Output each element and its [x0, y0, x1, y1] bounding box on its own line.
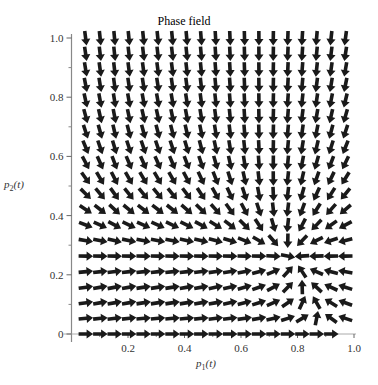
field-arrow	[164, 185, 180, 202]
field-arrow	[222, 234, 239, 247]
field-arrow	[150, 282, 166, 293]
field-arrow	[194, 266, 210, 277]
field-arrow	[211, 46, 221, 61]
field-arrow	[136, 266, 151, 277]
field-arrow	[225, 31, 235, 46]
field-arrow	[179, 313, 194, 324]
field-arrow	[323, 185, 339, 202]
field-arrow	[150, 313, 165, 324]
field-arrow	[167, 77, 178, 93]
field-arrow	[337, 201, 354, 217]
field-arrow	[150, 185, 166, 202]
field-arrow	[237, 201, 252, 218]
field-arrow	[95, 46, 106, 62]
field-arrow	[266, 251, 281, 261]
field-arrow	[311, 62, 322, 77]
field-arrow	[121, 218, 138, 232]
field-arrow	[254, 47, 263, 62]
field-arrow	[325, 93, 337, 109]
field-arrow	[77, 186, 94, 203]
field-arrow	[210, 93, 221, 108]
field-arrow	[165, 329, 180, 338]
field-arrow	[108, 139, 121, 156]
field-arrow	[295, 217, 310, 234]
field-arrow	[251, 296, 268, 309]
field-arrow	[254, 124, 264, 139]
field-arrow	[180, 251, 195, 260]
field-arrow	[337, 281, 354, 294]
field-arrow	[224, 139, 235, 155]
field-arrow	[196, 93, 207, 109]
field-arrow	[223, 329, 238, 338]
field-arrow	[136, 329, 151, 338]
field-arrow	[254, 62, 263, 77]
field-arrow	[311, 124, 323, 140]
field-arrow	[240, 93, 250, 108]
field-arrow	[107, 281, 123, 293]
field-arrow	[165, 154, 179, 171]
field-arrow	[165, 170, 180, 187]
field-arrow	[337, 266, 353, 278]
field-arrow	[308, 279, 325, 296]
field-arrow	[194, 251, 209, 260]
field-arrow	[225, 93, 235, 108]
field-arrow	[280, 312, 297, 325]
field-arrow	[150, 170, 165, 187]
field-arrow	[282, 202, 293, 218]
field-arrow	[108, 329, 123, 338]
field-arrow	[195, 124, 207, 140]
field-arrow	[181, 93, 192, 109]
field-arrow	[179, 185, 195, 202]
field-arrow	[138, 62, 149, 78]
field-arrow	[268, 109, 278, 124]
field-arrow	[79, 251, 94, 260]
field-arrow	[339, 108, 352, 124]
field-arrow	[152, 124, 165, 140]
field-arrow	[268, 187, 278, 202]
y-axis-label: p2(t)	[3, 178, 24, 193]
field-arrow	[325, 77, 336, 93]
field-arrow	[193, 218, 210, 233]
field-arrow	[269, 156, 278, 171]
field-arrow	[252, 329, 267, 338]
field-arrow	[137, 108, 149, 124]
field-arrow	[325, 108, 337, 124]
x-label-tail: (t)	[206, 357, 217, 370]
field-arrow	[222, 266, 238, 277]
field-arrow	[209, 251, 224, 260]
field-arrow	[92, 201, 109, 217]
y-tick-label: 0.6	[50, 150, 64, 162]
field-arrow	[107, 170, 122, 187]
field-arrow	[108, 124, 120, 140]
field-arrow	[254, 140, 264, 155]
field-arrow	[78, 170, 94, 187]
field-arrow	[337, 234, 353, 246]
y-tick-label: 0.8	[50, 91, 64, 103]
field-arrow	[109, 77, 120, 93]
field-arrow	[324, 251, 339, 260]
field-arrow	[297, 93, 308, 108]
field-arrow	[78, 235, 94, 246]
field-arrow	[283, 109, 293, 124]
field-arrow	[165, 297, 181, 308]
field-arrow	[93, 313, 108, 324]
field-arrow	[254, 31, 263, 46]
field-arrow	[93, 154, 107, 171]
field-arrow	[265, 280, 282, 295]
field-arrow	[179, 170, 194, 187]
field-arrow	[238, 186, 251, 203]
field-arrow	[93, 251, 108, 260]
field-arrow	[121, 201, 138, 217]
field-arrow	[109, 46, 120, 61]
field-arrow	[269, 140, 278, 155]
field-arrow	[283, 93, 293, 108]
field-arrow	[268, 202, 279, 217]
field-arrow	[207, 217, 224, 232]
field-arrow	[194, 170, 208, 187]
field-arrow	[136, 251, 151, 260]
field-arrow	[240, 78, 250, 93]
field-arrow	[208, 234, 224, 247]
field-arrow	[138, 31, 149, 46]
field-arrow	[237, 266, 253, 278]
field-arrow	[223, 186, 237, 203]
